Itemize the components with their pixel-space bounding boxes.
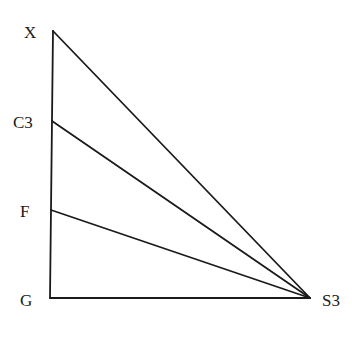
edge-x-g — [50, 31, 53, 298]
label-c3: C3 — [13, 113, 33, 132]
edge-x-s3 — [53, 31, 310, 298]
diagram-canvas: X C3 F G S3 — [0, 0, 352, 339]
label-x: X — [24, 23, 36, 42]
label-f: F — [20, 202, 29, 221]
edge-c3-s3 — [52, 121, 310, 298]
label-g: G — [20, 291, 32, 310]
label-s3: S3 — [322, 291, 340, 310]
edge-f-s3 — [51, 210, 310, 298]
